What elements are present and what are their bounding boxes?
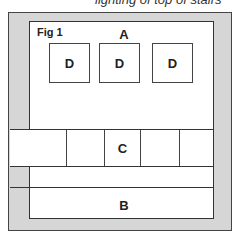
region-c-cell (10, 130, 67, 166)
region-a-label: A (119, 27, 128, 42)
region-b-label: B (119, 198, 128, 213)
figure-inner-area: Fig 1 A D D D C B (29, 21, 214, 219)
region-b-divider (10, 187, 213, 188)
figure-frame: Fig 1 A D D D C B (8, 12, 232, 231)
region-d-box-2: D (99, 43, 140, 83)
region-c-cell (180, 130, 213, 166)
cropped-caption: lighting of top of stairs (95, 0, 221, 7)
figure-label: Fig 1 (37, 26, 63, 38)
region-d-box-3: D (152, 43, 193, 83)
region-c-cell-label: C (105, 130, 141, 166)
region-c-cell (67, 130, 105, 166)
region-c-row: C (10, 129, 213, 167)
region-d-box-1: D (49, 43, 90, 83)
region-c-cell (141, 130, 180, 166)
